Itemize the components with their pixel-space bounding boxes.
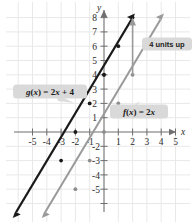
graph-figure: -5 -4 -3 -2 -1 1 2 3 4 5 8 7 6 5 4 3 2 1… xyxy=(0,0,194,224)
y-tick-label: -2 xyxy=(92,142,100,152)
x-tick-label: 1 xyxy=(116,137,121,147)
y-tick-label: -5 xyxy=(92,185,100,195)
g-point xyxy=(59,159,63,163)
x-axis-label: x xyxy=(180,127,186,137)
x-tick-label: 3 xyxy=(145,137,150,147)
y-tick-label: 7 xyxy=(92,27,97,37)
y-tick-label: 6 xyxy=(92,42,97,52)
x-tick-label: -4 xyxy=(43,137,51,147)
f-point xyxy=(74,187,78,191)
x-tick-label: -2 xyxy=(71,137,79,147)
g-point xyxy=(116,44,120,48)
y-axis-label: y xyxy=(96,3,102,13)
f-point xyxy=(88,159,92,163)
g-point xyxy=(74,130,78,134)
callout-f-text: f(x) = 2x xyxy=(123,107,156,117)
callout-shift-label: 4 units up xyxy=(142,38,192,51)
y-tick-label: -3 xyxy=(92,156,100,166)
y-tick-label: 1 xyxy=(92,113,97,123)
y-tick-label: 5 xyxy=(92,56,97,66)
g-point xyxy=(88,102,92,106)
y-tick-label: -4 xyxy=(92,171,100,181)
x-tick-label: -5 xyxy=(29,137,37,147)
y-tick-label: 8 xyxy=(92,13,97,23)
callout-g-text: g(x) = 2x + 4 xyxy=(25,87,74,97)
callout-shift-text: 4 units up xyxy=(149,40,185,49)
x-tick-label: 4 xyxy=(159,137,164,147)
coordinate-plane: -5 -4 -3 -2 -1 1 2 3 4 5 8 7 6 5 4 3 2 1… xyxy=(0,0,194,224)
x-tick-label: 5 xyxy=(173,137,178,147)
g-point xyxy=(102,73,106,77)
f-var-letter2: x xyxy=(150,107,156,117)
f-point xyxy=(102,130,106,134)
y-tick-label: 2 xyxy=(92,99,97,109)
x-tick-label: 2 xyxy=(130,137,135,147)
